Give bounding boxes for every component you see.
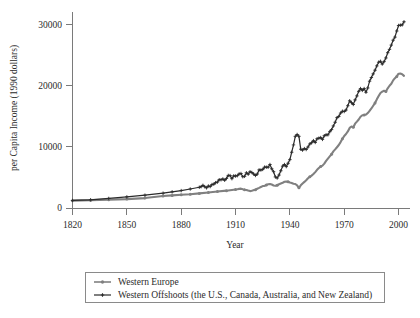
data-point — [395, 75, 398, 78]
legend-label: Western Europe — [118, 277, 179, 287]
data-point — [279, 169, 282, 172]
data-point — [308, 175, 311, 178]
y-axis-title: per Capita Income (1990 dollars) — [9, 45, 20, 171]
data-point — [171, 194, 174, 197]
data-point — [346, 104, 349, 107]
line-chart: 0100002000030000 per Capita Income (1990… — [0, 0, 420, 318]
data-point — [395, 29, 398, 32]
x-tick-label: 1880 — [172, 220, 191, 230]
data-point — [317, 136, 320, 139]
data-point — [170, 190, 173, 193]
data-point — [189, 193, 192, 196]
legend-item-western-offshoots[interactable]: Western Offshoots (the U.S., Canada, Aus… — [94, 290, 372, 301]
data-point — [292, 143, 295, 146]
data-point — [330, 153, 333, 156]
y-axis-ticks — [66, 24, 73, 208]
data-point — [319, 165, 322, 168]
data-point — [225, 189, 228, 192]
data-point — [143, 197, 146, 200]
x-tick-label: 1910 — [226, 220, 245, 230]
legend-item-western-europe[interactable]: Western Europe — [94, 277, 179, 287]
series-western-offshoots — [71, 20, 406, 202]
data-point — [143, 193, 146, 196]
data-point — [290, 151, 293, 154]
chart-figure: 0100002000030000 per Capita Income (1990… — [0, 0, 420, 318]
data-point — [234, 188, 237, 191]
data-point — [352, 126, 355, 129]
data-point — [180, 193, 183, 196]
data-point — [276, 184, 279, 187]
data-point — [390, 43, 393, 46]
legend-items: Western EuropeWestern Offshoots (the U.S… — [94, 277, 372, 301]
data-point — [366, 86, 369, 89]
y-axis-tick-labels: 0100002000030000 — [38, 20, 62, 214]
data-point — [216, 190, 219, 193]
legend-label: Western Offshoots (the U.S., Canada, Aus… — [118, 290, 372, 301]
x-axis: 1820185018801910194019702000 Year — [63, 209, 410, 251]
y-tick-label: 0 — [57, 203, 62, 213]
y-axis: 0100002000030000 per Capita Income (1990… — [9, 12, 73, 213]
x-tick-label: 1820 — [63, 220, 82, 230]
series-line — [73, 74, 405, 201]
plot-series-group — [71, 20, 406, 202]
data-point — [265, 183, 268, 186]
x-axis-tick-labels: 1820185018801910194019702000 — [63, 220, 408, 230]
data-point — [189, 187, 192, 190]
y-tick-label: 30000 — [38, 20, 62, 30]
x-axis-title: Year — [226, 240, 244, 250]
data-point — [161, 191, 164, 194]
x-tick-label: 1970 — [335, 220, 354, 230]
data-point — [243, 188, 246, 191]
data-point — [207, 191, 210, 194]
x-tick-label: 1850 — [117, 220, 136, 230]
data-point — [198, 186, 201, 189]
x-tick-label: 2000 — [389, 220, 408, 230]
legend-marker-plus-icon — [101, 293, 104, 297]
data-point — [162, 194, 165, 197]
data-point — [341, 137, 344, 140]
legend-marker-circle-icon — [101, 280, 104, 283]
data-point — [179, 189, 182, 192]
y-tick-label: 10000 — [38, 142, 62, 152]
data-point — [384, 90, 387, 93]
series-western-europe — [71, 74, 404, 203]
x-tick-label: 1940 — [280, 220, 299, 230]
data-point — [287, 180, 290, 183]
data-point — [259, 168, 262, 171]
x-axis-ticks — [73, 209, 399, 216]
data-point — [374, 102, 377, 105]
data-point — [254, 188, 257, 191]
data-point — [363, 114, 366, 117]
legend: Western EuropeWestern Offshoots (the U.S… — [86, 273, 385, 303]
y-tick-label: 20000 — [38, 81, 62, 91]
data-point — [198, 192, 201, 195]
data-point — [297, 186, 300, 189]
